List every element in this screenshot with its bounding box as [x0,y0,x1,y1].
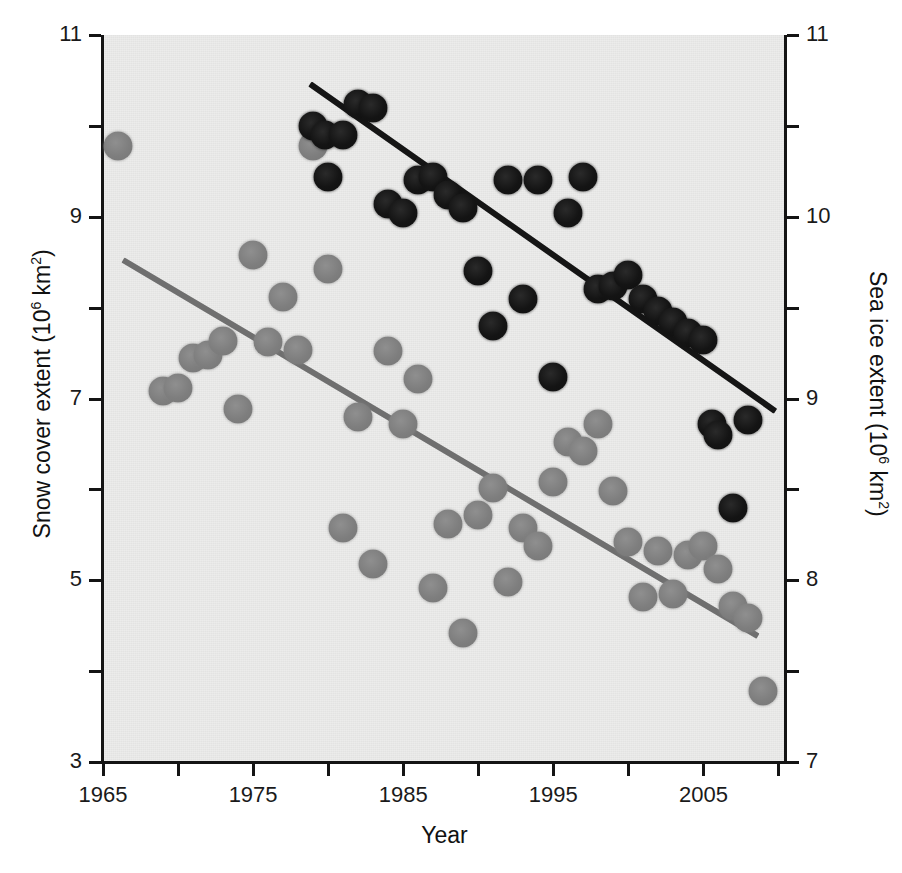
y-axis-left-title-unit-exponent: 2 [28,257,44,265]
sea-ice-data-point [479,311,508,340]
snow-cover-data-point [359,549,388,578]
y-axis-right-minor-tick [787,125,799,128]
y-axis-left-tick-label: 9 [70,203,82,229]
y-axis-right-title-unit: km [865,464,891,501]
y-axis-right-minor-tick [787,307,799,310]
y-axis-left-tick-label: 3 [70,748,82,774]
y-axis-left-minor-tick [89,488,101,491]
snow-cover-data-point [644,537,673,566]
y-axis-right-title: Sea ice extent (106 km2) [864,134,892,654]
y-axis-left-title-text: Snow cover extent (10 [29,310,55,539]
y-axis-left-tick-label: 5 [70,566,82,592]
y-axis-left-tick [89,34,101,37]
snow-cover-data-point [749,677,778,706]
snow-cover-data-point [494,568,523,597]
x-axis-tick-label: 2005 [679,782,728,808]
y-axis-right-tick-label: 9 [806,385,818,411]
sea-ice-data-point [539,362,568,391]
x-axis-tick-label: 1975 [229,782,278,808]
snow-cover-data-point [389,409,418,438]
x-axis-tick [102,764,105,776]
y-axis-left-tick [89,398,101,401]
snow-cover-data-point [539,468,568,497]
snow-cover-data-point [314,255,343,284]
sea-ice-data-point [359,93,388,122]
y-axis-right-tick [787,398,799,401]
x-axis-minor-tick [327,764,330,776]
snow-cover-data-point [254,328,283,357]
plot-area [103,35,786,762]
x-axis-minor-tick [177,764,180,776]
y-axis-right-tick-label: 10 [806,203,830,229]
x-axis-tick [552,764,555,776]
y-axis-right-tick-label: 8 [806,566,818,592]
snow-cover-data-point [599,477,628,506]
sea-ice-data-point [509,284,538,313]
snow-cover-data-point [704,555,733,584]
sea-ice-data-point [719,493,748,522]
snow-cover-data-point [209,327,238,356]
x-axis-tick [252,764,255,776]
y-axis-left-title-close: ) [29,249,55,257]
y-axis-right-tick [787,216,799,219]
snow-cover-data-point [614,528,643,557]
snow-cover-data-point [104,131,133,160]
x-axis-tick-label: 1995 [529,782,578,808]
sea-ice-data-point [689,326,718,355]
y-axis-right-minor-tick [787,670,799,673]
snow-cover-data-point [659,579,688,608]
snow-cover-data-point [239,240,268,269]
x-axis-tick-label: 1985 [379,782,428,808]
sea-ice-data-point [314,162,343,191]
x-axis-minor-tick [777,764,780,776]
sea-ice-data-point [494,166,523,195]
y-axis-left-minor-tick [89,125,101,128]
y-axis-left-tick-label: 7 [70,385,82,411]
y-axis-right-tick-label: 7 [806,748,818,774]
snow-cover-data-point [734,604,763,633]
snow-cover-data-point [569,437,598,466]
x-axis-title: Year [103,822,786,849]
y-axis-left-title: Snow cover extent (106 km2) [28,134,56,654]
y-axis-right-title-close: ) [865,509,891,517]
y-axis-right-minor-tick [787,488,799,491]
sea-ice-data-point [554,199,583,228]
x-axis-tick-label: 1965 [79,782,128,808]
y-axis-left-minor-tick [89,307,101,310]
snow-cover-data-point [464,500,493,529]
snow-cover-data-point [224,395,253,424]
y-axis-left-title-exponent: 6 [28,302,44,310]
snow-cover-data-point [344,402,373,431]
y-axis-left-title-unit: km [29,265,55,302]
snow-cover-data-point [449,618,478,647]
sea-ice-data-point [329,120,358,149]
x-axis-tick [402,764,405,776]
snow-cover-data-point [479,473,508,502]
snow-cover-data-point [629,582,658,611]
y-axis-right-tick-label: 11 [806,21,829,47]
sea-ice-data-point [449,193,478,222]
y-axis-right-tick [787,761,799,764]
x-axis-minor-tick [477,764,480,776]
snow-cover-data-point [164,373,193,402]
y-axis-right-tick [787,34,799,37]
x-axis-minor-tick [627,764,630,776]
y-axis-right-title-text: Sea ice extent (10 [865,271,891,456]
sea-ice-data-point [704,420,733,449]
y-axis-left-tick-label: 11 [59,21,82,47]
snow-cover-data-point [329,513,358,542]
sea-ice-data-point [524,166,553,195]
y-axis-right-tick [787,579,799,582]
snow-cover-data-point [419,573,448,602]
snow-cover-data-point [584,409,613,438]
sea-ice-trendline [308,82,777,414]
snow-cover-data-point [524,531,553,560]
snow-cover-data-point [284,336,313,365]
y-axis-left-minor-tick [89,670,101,673]
snow-cover-data-point [269,282,298,311]
sea-ice-data-point [464,257,493,286]
y-axis-left-tick [89,761,101,764]
chart-figure: 357911789101119651975198519952005 Snow c… [0,0,902,873]
snow-cover-data-point [434,509,463,538]
x-axis-line [101,761,787,764]
